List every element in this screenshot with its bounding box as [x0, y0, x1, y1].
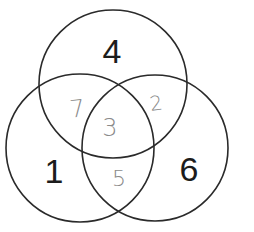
region-left-only-label: 1 — [45, 152, 64, 190]
region-right-only-label: 6 — [180, 150, 199, 188]
region-top-only-label: 4 — [103, 32, 122, 70]
venn-diagram: 4 1 6 7 2 5 3 — [0, 0, 254, 232]
region-top-right-label: 2 — [148, 90, 164, 116]
region-all-three-label: 3 — [102, 114, 117, 142]
region-top-left-label: 7 — [68, 94, 86, 123]
region-left-right-label: 5 — [112, 166, 126, 191]
